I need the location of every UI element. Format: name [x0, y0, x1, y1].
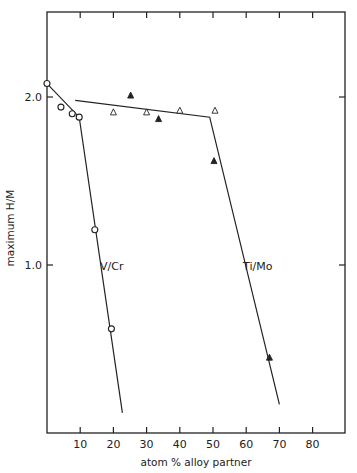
x-axis-label: atom % alloy partner: [140, 456, 252, 468]
circle-marker: [44, 81, 50, 87]
x-tick-label: 10: [73, 438, 87, 451]
circle-marker: [76, 114, 82, 120]
circle-marker: [58, 104, 64, 110]
x-tick-label: 30: [140, 438, 154, 451]
fit-lines: [47, 84, 279, 413]
y-tick-label: 1.0: [25, 259, 43, 272]
circle-marker: [92, 227, 98, 233]
filled-triangle-marker: [156, 116, 162, 122]
series-label-timo: Ti/Mo: [242, 260, 273, 273]
open-triangle-marker: [177, 107, 183, 113]
data-markers: [44, 81, 272, 361]
y-axis-label: maximum H/M: [4, 190, 16, 267]
x-tick-label: 50: [206, 438, 220, 451]
chart: 1020304050607080 1.02.0 atom % alloy par…: [0, 0, 357, 473]
open-triangle-marker: [212, 107, 218, 113]
x-tick-label: 40: [173, 438, 187, 451]
open-triangle-marker: [110, 109, 116, 115]
y-tick-label: 2.0: [25, 91, 43, 104]
fit-line: [47, 84, 122, 413]
x-tick-label: 60: [239, 438, 253, 451]
fit-line: [75, 100, 279, 404]
series-label-vcr: V/Cr: [100, 260, 124, 273]
circle-marker: [69, 111, 75, 117]
y-axis-ticks: 1.02.0: [25, 91, 346, 272]
x-tick-label: 70: [272, 438, 286, 451]
plot-frame: [47, 12, 345, 433]
x-tick-label: 20: [106, 438, 120, 451]
circle-marker: [108, 326, 114, 332]
filled-triangle-marker: [211, 158, 217, 164]
x-axis-ticks: 1020304050607080: [73, 12, 319, 451]
x-tick-label: 80: [306, 438, 320, 451]
filled-triangle-marker: [128, 92, 134, 98]
